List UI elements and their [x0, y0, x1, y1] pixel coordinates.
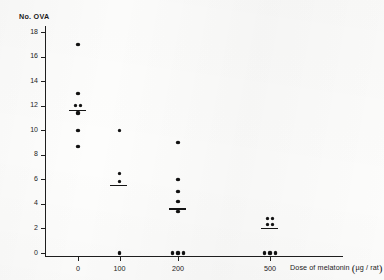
data-point	[176, 178, 179, 181]
y-tick-label: 2	[18, 224, 38, 231]
data-point	[118, 180, 121, 183]
paren-close-glyph: )	[379, 265, 383, 272]
y-tick-mark	[41, 57, 46, 58]
data-point	[76, 43, 79, 46]
group-mean-bar	[110, 185, 127, 187]
x-tick-label: 200	[163, 264, 193, 273]
y-tick-mark	[41, 155, 46, 156]
group-mean-bar	[261, 228, 278, 230]
data-point	[76, 92, 79, 95]
x-tick-mark	[78, 257, 79, 261]
paper-grain-overlay	[0, 0, 384, 280]
data-point	[176, 190, 179, 193]
data-point	[76, 145, 79, 148]
x-axis-caption-text: Dose of melatonin	[290, 263, 350, 272]
data-point	[266, 223, 269, 226]
data-point	[76, 129, 79, 132]
data-point	[76, 111, 79, 114]
group-mean-bar	[69, 110, 86, 112]
x-axis-caption: Dose of melatonin (µg / rat)	[290, 263, 383, 272]
y-tick-label: 12	[18, 101, 38, 108]
data-point	[176, 210, 179, 213]
x-axis-line	[45, 256, 343, 257]
x-tick-mark	[178, 257, 179, 261]
x-tick-mark	[120, 257, 121, 261]
scatter-plot-figure: No. OVA 024681012141618 0100200500 Dose …	[0, 0, 384, 280]
y-tick-label: 6	[18, 175, 38, 182]
data-point	[118, 251, 121, 254]
data-point	[271, 223, 274, 226]
data-point	[171, 251, 174, 254]
y-tick-mark	[41, 130, 46, 131]
y-axis-line	[45, 26, 46, 257]
x-tick-label: 100	[105, 264, 135, 273]
data-point	[266, 217, 269, 220]
data-point	[271, 217, 274, 220]
y-tick-mark	[41, 253, 46, 254]
y-tick-mark	[41, 81, 46, 82]
y-tick-mark	[41, 179, 46, 180]
data-point	[79, 104, 82, 107]
y-axis-title: No. OVA	[19, 12, 49, 21]
x-tick-label: 0	[63, 264, 93, 273]
y-tick-mark	[41, 228, 46, 229]
y-tick-mark	[41, 204, 46, 205]
data-point	[182, 251, 185, 254]
y-tick-mark	[41, 106, 46, 107]
data-point	[268, 251, 271, 254]
y-tick-label: 0	[18, 249, 38, 256]
y-tick-label: 4	[18, 199, 38, 206]
y-tick-label: 14	[18, 77, 38, 84]
y-tick-mark	[41, 32, 46, 33]
data-point	[118, 129, 121, 132]
data-point	[176, 200, 179, 203]
data-point	[176, 251, 179, 254]
y-tick-label: 18	[18, 28, 38, 35]
y-tick-label: 10	[18, 126, 38, 133]
y-tick-label: 8	[18, 150, 38, 157]
data-point	[263, 251, 266, 254]
data-point	[176, 141, 179, 144]
x-axis-caption-units: µg / rat	[356, 263, 379, 272]
data-point	[74, 104, 77, 107]
data-point	[118, 172, 121, 175]
group-mean-bar	[169, 208, 186, 210]
data-point	[274, 251, 277, 254]
x-tick-mark	[270, 257, 271, 261]
x-tick-label: 500	[255, 264, 285, 273]
y-tick-label: 16	[18, 52, 38, 59]
